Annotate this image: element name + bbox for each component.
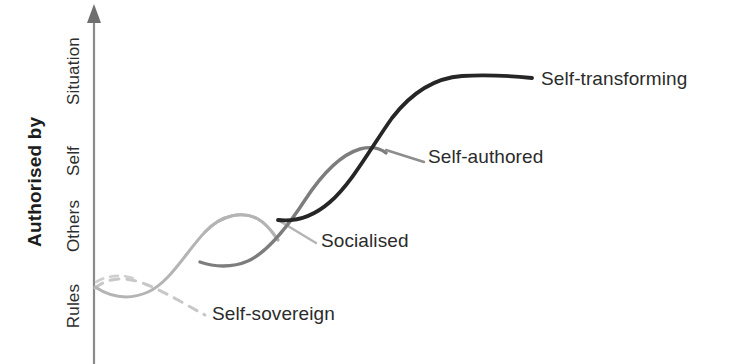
curve-self-sovereign: [95, 279, 205, 315]
leader-line-self-authored: [386, 150, 424, 162]
y-axis: [87, 4, 101, 364]
y-tick-label-rules: Rules: [64, 256, 84, 356]
y-axis-title: Authorised by: [24, 127, 46, 247]
curve-label-socialised: Socialised: [321, 230, 409, 252]
curve-label-self-transforming: Self-transforming: [541, 68, 687, 90]
y-tick-label-situation: Situation: [64, 21, 84, 121]
curve-socialised-crest: [205, 215, 278, 240]
curve-label-self-authored: Self-authored: [428, 146, 543, 168]
y-axis-arrowhead: [87, 4, 101, 23]
curve-socialised: [95, 215, 278, 297]
curve-label-self-sovereign: Self-sovereign: [212, 303, 335, 325]
chart-canvas: Authorised by Situation Self Others Rule…: [0, 0, 756, 364]
chart-graphic: [0, 0, 756, 364]
